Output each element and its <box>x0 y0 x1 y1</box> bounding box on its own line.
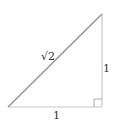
right-angle-marker <box>94 99 102 107</box>
height-label: 1 <box>103 62 110 75</box>
right-triangle-diagram: √2 1 1 <box>0 0 118 122</box>
base-label: 1 <box>53 109 60 122</box>
hypotenuse-label: √2 <box>41 50 55 63</box>
